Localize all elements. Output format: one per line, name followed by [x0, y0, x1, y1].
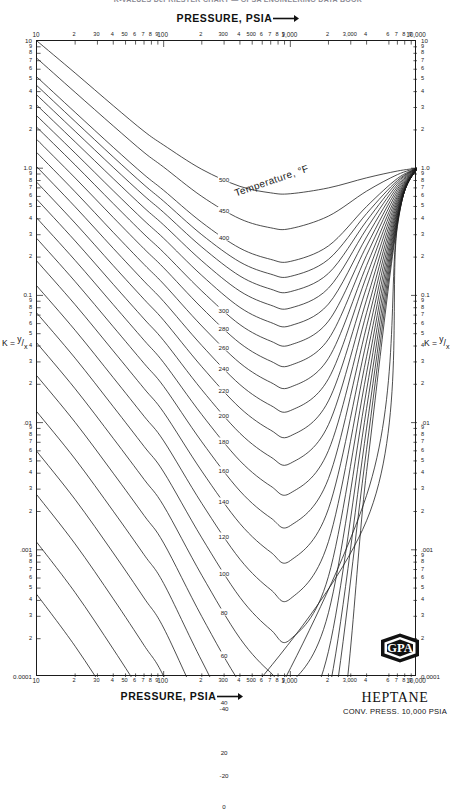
y-tick-label: 5 — [29, 202, 32, 208]
y-tick-label: 9 — [421, 43, 424, 49]
x-tick-label: 30 — [93, 677, 99, 683]
y-tick-labels-right: 10987654321.0987654320.198765432.0198765… — [418, 40, 458, 676]
x-axis-caption-bottom-text: PRESSURE, PSIA — [121, 690, 217, 702]
y-tick-label: 9 — [421, 552, 424, 558]
y-tick-label: 0.0001 — [13, 673, 32, 680]
curve-label-400: 400 — [218, 234, 230, 241]
x-tick-label: 8 — [149, 677, 152, 683]
y-tick-label: 6 — [421, 574, 424, 580]
y-tick-label: 0.0001 — [421, 673, 440, 680]
x-tick-label: 1,000 — [281, 31, 297, 38]
k-den-right: x — [446, 343, 450, 351]
curve-label-300: 300 — [218, 307, 230, 314]
x-tick-label: 8 — [275, 677, 278, 683]
x-tick-label: 6 — [260, 31, 263, 37]
x-tick-label: 7 — [268, 677, 271, 683]
plot-area: Temperature, °F 500450400300280260240220… — [36, 40, 416, 676]
x-tick-labels-top: 1023045067891002300450067891,00023,00046… — [36, 31, 416, 40]
x-tick-label: 4 — [237, 31, 240, 37]
y-tick-label: 3 — [29, 358, 32, 364]
y-tick-label: 7 — [421, 57, 424, 63]
curve-label-100: 100 — [218, 569, 230, 576]
x-axis-caption-top: PRESSURE, PSIA — [0, 12, 476, 24]
y-tick-label: 2 — [29, 380, 32, 386]
y-tick-label: 3 — [421, 104, 424, 110]
x-tick-label: 7 — [395, 31, 398, 37]
x-tick-label: 2 — [326, 677, 329, 683]
y-tick-label: 9 — [29, 170, 32, 176]
y-tick-label: 8 — [29, 177, 32, 183]
x-tick-label: 7 — [395, 677, 398, 683]
x-tick-label: 2 — [73, 677, 76, 683]
y-tick-label: 7 — [421, 566, 424, 572]
curve-label-240: 240 — [218, 364, 230, 371]
y-tick-label: 2 — [421, 380, 424, 386]
y-tick-label: 9 — [421, 297, 424, 303]
product-name: HEPTANE — [330, 690, 460, 706]
x-tick-label: 7 — [268, 31, 271, 37]
y-tick-label: 6 — [29, 574, 32, 580]
isotherm-curve — [37, 140, 417, 367]
y-tick-label: 7 — [29, 57, 32, 63]
x-tick-label: 4 — [111, 677, 114, 683]
curve-label--20: -20 — [219, 771, 230, 778]
y-tick-label: 5 — [421, 75, 424, 81]
x-tick-label: 100 — [157, 677, 168, 684]
y-tick-label: 2 — [29, 126, 32, 132]
curve-label-140: 140 — [218, 498, 230, 505]
x-tick-label: 8 — [275, 31, 278, 37]
y-tick-label: 7 — [29, 438, 32, 444]
curve-label-280: 280 — [218, 325, 230, 332]
y-tick-label: 6 — [421, 447, 424, 453]
y-tick-label: 4 — [421, 215, 424, 221]
x-axis-caption-bottom: PRESSURE, PSIA — [32, 690, 332, 702]
y-tick-label: 2 — [421, 253, 424, 259]
y-tick-label: 3 — [29, 231, 32, 237]
curve-label--40: -40 — [219, 704, 230, 711]
curve-label-500: 500 — [218, 176, 230, 183]
y-tick-label: 7 — [29, 311, 32, 317]
k-fraction-right: y/x — [439, 334, 449, 351]
y-tick-label: 8 — [421, 177, 424, 183]
y-tick-label: 3 — [29, 104, 32, 110]
y-tick-label: 2 — [29, 635, 32, 641]
y-axis-caption-left: K = y/x — [2, 334, 28, 351]
y-tick-label: 2 — [421, 126, 424, 132]
y-tick-label: 4 — [29, 342, 32, 348]
isotherm-curve — [37, 95, 417, 293]
curve-label-80: 80 — [220, 609, 229, 616]
gpa-logo: GPA — [378, 632, 422, 664]
x-tick-label: 8 — [149, 31, 152, 37]
x-tick-label: 4 — [111, 31, 114, 37]
isotherm-curve — [37, 167, 417, 412]
x-tick-label: 300 — [218, 677, 227, 683]
y-tick-label: 3 — [421, 231, 424, 237]
y-tick-label: 7 — [421, 184, 424, 190]
y-tick-label: 2 — [29, 253, 32, 259]
x-tick-label: 300 — [218, 31, 227, 37]
y-tick-label: 9 — [29, 552, 32, 558]
y-tick-label: 7 — [29, 184, 32, 190]
x-tick-label: 500 — [247, 31, 256, 37]
y-tick-label: 5 — [29, 330, 32, 336]
y-tick-label: 4 — [29, 596, 32, 602]
y-tick-label: 6 — [421, 65, 424, 71]
y-tick-label: 3 — [29, 612, 32, 618]
y-tick-label: 6 — [29, 320, 32, 326]
y-tick-label: 8 — [421, 431, 424, 437]
y-tick-label: 6 — [29, 447, 32, 453]
y-tick-label: 9 — [29, 297, 32, 303]
x-axis-caption-top-text: PRESSURE, PSIA — [177, 12, 273, 24]
y-tick-label: 5 — [29, 75, 32, 81]
y-tick-label: 5 — [29, 584, 32, 590]
x-tick-label: 6 — [260, 677, 263, 683]
x-tick-label: 6 — [386, 31, 389, 37]
curve-label-60: 60 — [220, 652, 229, 659]
x-tick-label: 3,000 — [343, 31, 357, 37]
x-tick-label: 10 — [32, 677, 39, 684]
curve-label-120: 120 — [218, 532, 230, 539]
x-tick-label: 6 — [386, 677, 389, 683]
arrow-right-icon — [273, 14, 299, 23]
y-tick-label: 9 — [421, 170, 424, 176]
